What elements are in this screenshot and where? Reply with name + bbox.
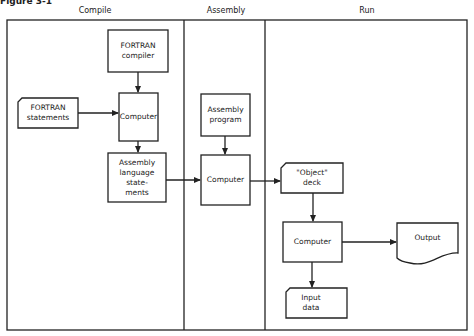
node-label-input-data: Input data	[286, 288, 336, 318]
node-label-run-computer: Computer	[283, 222, 342, 262]
node-label-assembly-program: Assembly program	[201, 94, 250, 136]
node-label-assembly-computer: Computer	[201, 155, 250, 205]
node-label-fortran-compiler: FORTRAN compiler	[108, 30, 168, 72]
node-label-object-deck: "Object" deck	[281, 163, 343, 193]
node-label-fortran-statements: FORTRAN statements	[18, 98, 78, 128]
node-label-output: Output	[397, 223, 458, 253]
node-label-assembly-language-statements: Assembly language state- ments	[108, 153, 166, 202]
node-label-compile-computer: Computer	[119, 93, 158, 141]
